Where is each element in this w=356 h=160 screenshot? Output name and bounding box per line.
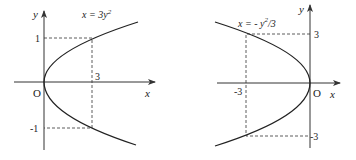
- equation-label: x = 3y2: [81, 8, 112, 20]
- x-axis-label: x: [144, 87, 150, 99]
- origin-label: O: [313, 87, 321, 99]
- y-axis-label: y: [298, 3, 304, 15]
- origin-label: O: [33, 87, 41, 99]
- tick-y-top: 1: [35, 33, 40, 44]
- y-axis-label: y: [32, 8, 38, 20]
- tick-x-mark: -3: [234, 86, 242, 97]
- tick-y-bottom: -1: [30, 123, 38, 134]
- x-axis-label: x: [329, 88, 335, 100]
- tick-x-mark: 3: [95, 71, 100, 82]
- diagram-right: y x O 3 -3 -3 x = - y2/3: [215, 3, 340, 148]
- parabola-diagrams: y x O 1 -1 3 x = 3y2 y x O 3 -3 -3 x = -…: [0, 0, 356, 160]
- diagram-left: y x O 1 -1 3 x = 3y2: [14, 8, 155, 150]
- parabola-curve: [44, 22, 138, 145]
- tick-y-top: 3: [314, 29, 319, 40]
- parabola-curve: [215, 22, 310, 146]
- equation-label: x = - y2/3: [237, 16, 276, 29]
- tick-y-bottom: -3: [310, 131, 318, 142]
